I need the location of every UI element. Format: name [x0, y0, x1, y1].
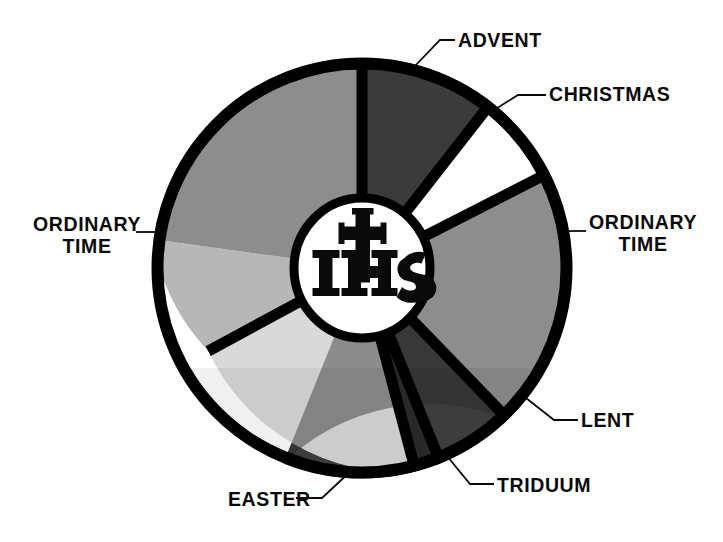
label-christmas: CHRISTMAS: [549, 84, 670, 106]
label-advent: ADVENT: [458, 30, 542, 52]
liturgical-year-diagram: ADVENT CHRISTMAS ORDINARY TIME LENT TRID…: [0, 0, 723, 542]
leader-christmas: [494, 95, 546, 110]
label-ordinary-time-right: ORDINARY TIME: [589, 212, 697, 256]
label-lent: LENT: [581, 410, 634, 432]
leader-lent: [526, 398, 578, 420]
label-triduum: TRIDUUM: [497, 475, 591, 497]
leader-triduum: [447, 456, 494, 484]
liturgical-wheel-svg: [0, 0, 723, 542]
leader-advent: [414, 40, 455, 67]
label-ordinary-time-left: ORDINARY TIME: [33, 214, 141, 258]
shade-band: [152, 368, 572, 480]
label-easter: EASTER: [228, 489, 311, 511]
